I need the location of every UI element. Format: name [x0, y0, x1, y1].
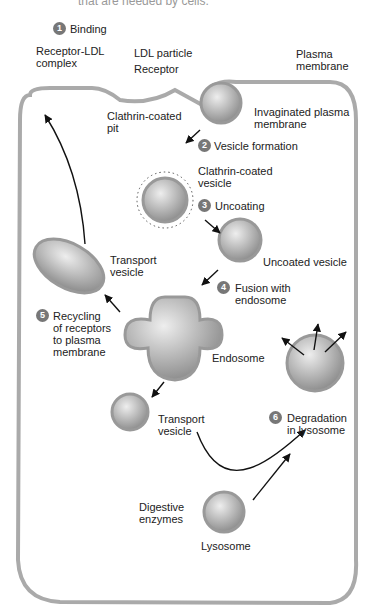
step-1-badge: 1 — [53, 22, 66, 35]
step-4-label: Fusion with endosome — [235, 282, 291, 306]
step-3-label: Uncoating — [215, 200, 265, 212]
transport-vesicle-bottom-label: Transport vesicle — [158, 413, 205, 437]
transport-vesicle-left — [25, 228, 113, 304]
transport-vesicle-bottom — [112, 394, 148, 430]
uncoated-vesicle — [219, 219, 261, 261]
step-5-label: Recycling of receptors to plasma membran… — [53, 310, 111, 358]
step-3-badge: 3 — [198, 199, 211, 212]
endosome-label: Endosome — [212, 352, 265, 364]
clathrin-pit-label: Clathrin-coated pit — [107, 110, 182, 134]
digestive-enzymes-label: Digestive enzymes — [139, 501, 184, 525]
plasma-membrane-label: Plasma membrane — [296, 48, 349, 72]
uncoated-vesicle-label: Uncoated vesicle — [263, 256, 347, 268]
step-1-label: Binding — [70, 23, 107, 35]
step-2-badge: 2 — [198, 139, 211, 152]
clathrin-coated-vesicle — [137, 172, 193, 228]
lysosome-label: Lysosome — [201, 540, 251, 552]
step-6-label: Degradation in lysosome — [287, 412, 347, 436]
step-5-badge: 5 — [36, 309, 49, 322]
receptor-ldl-complex-label: Receptor-LDL complex — [36, 45, 104, 69]
receptor-label: Receptor — [134, 63, 179, 75]
clathrin-vesicle-label: Clathrin-coated vesicle — [198, 165, 273, 189]
endosome — [125, 297, 222, 380]
lysosome — [204, 492, 244, 532]
step-6-badge: 6 — [269, 411, 282, 424]
invaginated-vesicle — [201, 83, 241, 123]
step-2-label: Vesicle formation — [214, 140, 298, 152]
transport-vesicle-top-label: Transport vesicle — [110, 254, 157, 278]
invaginated-membrane-label: Invaginated plasma membrane — [254, 106, 349, 130]
endocytosis-diagram — [0, 0, 370, 616]
step-4-badge: 4 — [217, 281, 230, 294]
ldl-particle-label: LDL particle — [134, 47, 192, 59]
